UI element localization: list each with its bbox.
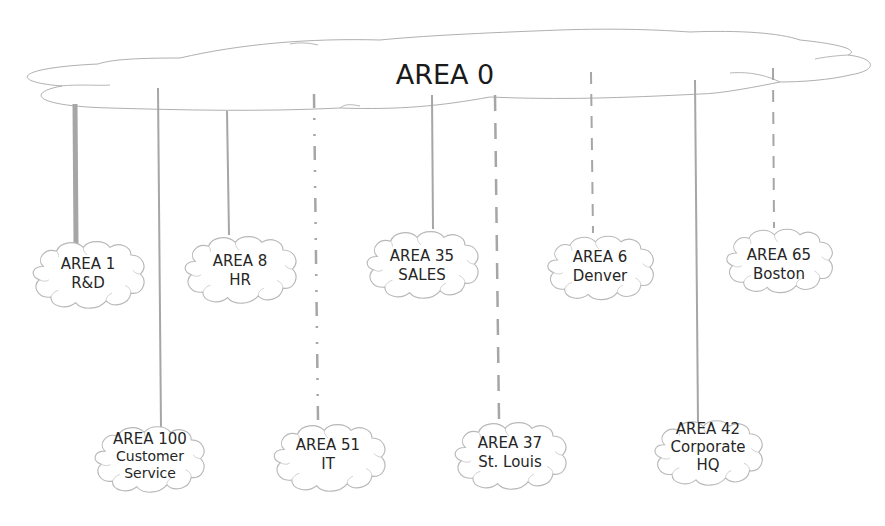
link-area-42 [695,80,698,422]
area-subtitle: IT [270,455,386,474]
area-subtitle: SALES [364,266,480,285]
area-title: AREA 51 [270,436,386,455]
area-label-37: AREA 37 St. Louis [452,434,568,472]
area-label-42: AREA 42 Corporate HQ [652,420,764,474]
area-label-100: AREA 100 Customer Service [92,430,208,482]
link-area-100 [158,88,161,428]
area-subtitle: HR [182,271,298,290]
link-area-51 [314,94,318,420]
link-area-37 [495,95,499,420]
area-label-65: AREA 65 Boston [723,246,835,284]
area-label-6: AREA 6 Denver [544,248,656,286]
area-subtitle: Customer Service [115,448,185,482]
area-subtitle: R&D [30,274,146,293]
area-subtitle: Boston [723,265,835,284]
link-area-35 [432,95,433,229]
area-title: AREA 42 [652,420,764,438]
area-subtitle: St. Louis [452,453,568,472]
area-label-35: AREA 35 SALES [364,247,480,285]
area-title: AREA 100 [92,430,208,448]
area-label-1: AREA 1 R&D [30,255,146,293]
link-area-1 [75,104,76,244]
area-title: AREA 1 [30,255,146,274]
area-label-8: AREA 8 HR [182,252,298,290]
area-title: AREA 8 [182,252,298,271]
area-title: AREA 35 [364,247,480,266]
link-area-8 [227,111,229,235]
area-subtitle: Denver [544,267,656,286]
area-title: AREA 6 [544,248,656,267]
area-title: AREA 37 [452,434,568,453]
area-title: AREA 65 [723,246,835,265]
area-label-51: AREA 51 IT [270,436,386,474]
link-area-65 [773,68,774,228]
area-subtitle: Corporate HQ [668,438,748,474]
backbone-label: AREA 0 [355,58,535,92]
